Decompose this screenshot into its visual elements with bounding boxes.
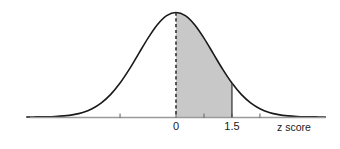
tick-label-zero: 0 bbox=[166, 121, 186, 132]
x-axis-title: z score bbox=[277, 122, 311, 133]
normal-distribution-figure: 0 1.5 z score bbox=[0, 0, 340, 149]
shaded-area-region bbox=[176, 12, 232, 117]
tick-label-one-point-five: 1.5 bbox=[218, 121, 246, 132]
